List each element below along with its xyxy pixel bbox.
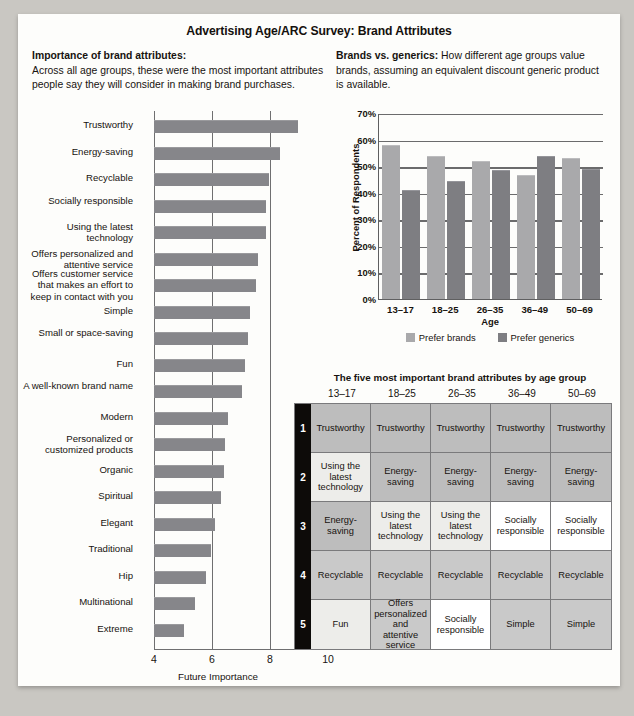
table-row: FunOffers personalized and attentive ser…	[311, 600, 611, 649]
table-cell: Fun	[311, 600, 371, 649]
brands-vs-generics-column-chart: Percent of Respondents Age Prefer brands…	[336, 106, 620, 336]
intro-left-lead: Importance of brand attributes:	[32, 50, 186, 61]
bar-chart-row: Trustworthy	[18, 119, 334, 143]
bar-chart-row: Personalized or customized products	[18, 437, 334, 461]
table-cell: Simple	[551, 600, 611, 649]
column-chart-bar	[562, 158, 580, 299]
table-rank-number: 5	[295, 600, 311, 649]
table-rank-number: 4	[295, 551, 311, 600]
bar-chart-category-label: Energy-saving	[18, 146, 133, 157]
bar-chart-bar	[154, 385, 242, 398]
bar-chart-category-label: Hip	[18, 570, 133, 581]
bar-chart-category-label: Spiritual	[18, 490, 133, 501]
bar-chart-row: Extreme	[18, 623, 334, 647]
column-chart-bar	[402, 190, 420, 299]
table-column-header: 26–35	[432, 388, 492, 399]
bar-chart-bar	[154, 518, 215, 531]
bar-chart-category-label: Traditional	[18, 543, 133, 554]
intro-right-block: Brands vs. generics: How different age g…	[336, 49, 606, 93]
bar-chart-bar	[154, 147, 280, 160]
column-chart-bar	[447, 181, 465, 299]
table-cell: Recyclable	[491, 551, 551, 600]
column-chart-x-tick: 26–35	[465, 304, 515, 315]
bar-chart-category-label: Small or space-saving	[18, 327, 133, 338]
table-row: TrustworthyTrustworthyTrustworthyTrustwo…	[311, 404, 611, 453]
table-cell: Recyclable	[311, 551, 371, 600]
bar-chart-bar	[154, 306, 250, 319]
bar-chart-bar	[154, 200, 266, 213]
poster-page: Advertising Age/ARC Survey: Brand Attrib…	[0, 0, 634, 716]
bar-chart-x-tick: 8	[260, 653, 280, 665]
table-row: Energy-savingUsing the latest technology…	[311, 502, 611, 551]
bar-chart-row: Elegant	[18, 517, 334, 541]
column-chart-bar	[427, 156, 445, 299]
bar-chart-row: Modern	[18, 411, 334, 435]
column-chart-y-tick: 0%	[342, 294, 376, 305]
table-rank-column: 12345	[295, 404, 311, 649]
bar-chart-x-tick: 4	[144, 653, 164, 665]
table-column-headers: 13–1718–2526–3536–4950–69	[294, 388, 612, 399]
legend-swatch-icon	[498, 333, 507, 342]
bar-chart-row: Spiritual	[18, 490, 334, 514]
column-chart-bar	[537, 156, 555, 299]
bar-chart-x-axis-title: Future Importance	[138, 671, 298, 682]
bar-chart-category-label: Extreme	[18, 623, 133, 634]
bar-chart-row: Small or space-saving	[18, 331, 334, 355]
column-chart-bar	[382, 145, 400, 299]
bar-chart-row: Offers customer service that makes an ef…	[18, 278, 334, 302]
bar-chart-category-label: Socially responsible	[18, 195, 133, 206]
column-chart-x-tick: 18–25	[420, 304, 470, 315]
column-chart-y-tick: 40%	[342, 188, 376, 199]
table-cell: Energy-saving	[311, 502, 371, 551]
table-cell: Trustworthy	[551, 404, 611, 453]
intro-left-block: Importance of brand attributes: Across a…	[32, 49, 332, 93]
table-rank-number: 1	[295, 404, 311, 453]
bar-chart-row: Recyclable	[18, 172, 334, 196]
bar-chart-bar	[154, 120, 298, 133]
bar-chart-bar	[154, 412, 228, 425]
bar-chart-category-label: Elegant	[18, 517, 133, 528]
bar-chart-category-label: Trustworthy	[18, 119, 133, 130]
legend-label: Prefer generics	[511, 332, 575, 343]
bar-chart-bar	[154, 332, 248, 345]
table-cell: Trustworthy	[371, 404, 431, 453]
table-row: Using the latest technologyEnergy-saving…	[311, 453, 611, 502]
bar-chart-row: Using the latest technology	[18, 225, 334, 249]
bar-chart-category-label: A well-known brand name	[18, 380, 133, 391]
bar-chart-category-label: Personalized or customized products	[18, 433, 133, 456]
bar-chart-bar	[154, 173, 269, 186]
bar-chart-row: Traditional	[18, 543, 334, 567]
table-cell: Simple	[491, 600, 551, 649]
table-body: TrustworthyTrustworthyTrustworthyTrustwo…	[311, 404, 611, 649]
bar-chart-row: Simple	[18, 305, 334, 329]
legend-item: Prefer generics	[498, 332, 575, 343]
table-cell: Energy-saving	[431, 453, 491, 502]
column-chart-bar	[472, 161, 490, 299]
table-cell: Recyclable	[551, 551, 611, 600]
column-chart-y-tick: 60%	[342, 135, 376, 146]
table-cell: Trustworthy	[491, 404, 551, 453]
table-rank-number: 3	[295, 502, 311, 551]
bar-chart-category-label: Fun	[18, 358, 133, 369]
column-chart-x-tick: 13–17	[375, 304, 425, 315]
column-chart-bar	[517, 175, 535, 299]
bar-chart-bar	[154, 279, 256, 292]
table-cell: Energy-saving	[491, 453, 551, 502]
column-chart-gridline	[379, 141, 603, 142]
table-cell: Recyclable	[431, 551, 491, 600]
column-chart-bar	[582, 169, 600, 299]
bar-chart-bar	[154, 253, 258, 266]
table-column-header: 36–49	[492, 388, 552, 399]
bar-chart-bar	[154, 438, 225, 451]
table-column-header: 18–25	[372, 388, 432, 399]
legend-swatch-icon	[406, 333, 415, 342]
table-cell: Socially responsible	[551, 502, 611, 551]
bar-chart-category-label: Modern	[18, 411, 133, 422]
bar-chart-bar	[154, 544, 211, 557]
table-cell: Offers personalized and attentive servic…	[371, 600, 431, 649]
table-cell: Using the latest technology	[431, 502, 491, 551]
table-cell: Using the latest technology	[371, 502, 431, 551]
column-chart-y-tick: 30%	[342, 214, 376, 225]
bar-chart-row: Energy-saving	[18, 146, 334, 170]
top-attributes-table: The five most important brand attributes…	[294, 372, 612, 650]
